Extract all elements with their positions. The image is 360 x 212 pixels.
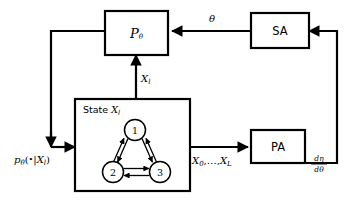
node-1-label: 1 [132, 125, 138, 136]
edge-label-derivative: dη dθ [311, 154, 327, 174]
sa-label: SA [272, 24, 288, 38]
diagram-root: Pθ SA PA State Xl 1 [0, 0, 360, 212]
edge-label-p-conditional: pθ(•|Xl) [14, 154, 50, 167]
node-2-label: 2 [110, 167, 116, 178]
chain-node-2[interactable]: 2 [103, 162, 124, 183]
edge-label-x-l: Xl [140, 73, 150, 86]
node-3-label: 3 [157, 167, 163, 178]
path-pa-to-sa [305, 31, 337, 163]
block-p-theta[interactable]: Pθ [105, 11, 168, 55]
edge-label-theta: θ [209, 13, 215, 24]
block-state[interactable]: State Xl 1 2 3 [75, 99, 190, 191]
block-diagram-canvas: Pθ SA PA State Xl 1 [0, 0, 360, 212]
chain-node-1[interactable]: 1 [125, 120, 146, 141]
flow-pa-to-sa [305, 31, 337, 163]
derivative-numerator: dη [314, 154, 324, 163]
edge-label-x-sequence: X0,…,XL [191, 155, 232, 168]
block-pa[interactable]: PA [251, 130, 305, 163]
derivative-denominator: dθ [314, 165, 324, 174]
pa-label: PA [271, 140, 285, 154]
chain-node-3[interactable]: 3 [150, 162, 171, 183]
block-sa[interactable]: SA [251, 13, 309, 48]
